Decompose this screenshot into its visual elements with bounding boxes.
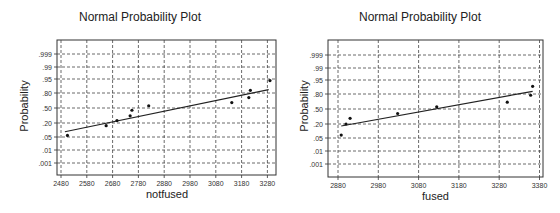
- svg-text:.80: .80: [42, 90, 52, 97]
- svg-text:.20: .20: [42, 120, 52, 127]
- svg-text:2880: 2880: [330, 182, 346, 189]
- svg-text:2980: 2980: [371, 182, 387, 189]
- svg-text:.01: .01: [42, 147, 52, 154]
- svg-text:.05: .05: [42, 134, 52, 141]
- plot-area: .001.01.05.20.50.80.95.99.99924802580268…: [0, 0, 280, 213]
- svg-text:2680: 2680: [105, 180, 121, 187]
- svg-text:2780: 2780: [131, 180, 147, 187]
- svg-text:.80: .80: [313, 91, 323, 98]
- svg-text:3180: 3180: [451, 182, 467, 189]
- svg-text:2480: 2480: [53, 180, 69, 187]
- chart-notfused: Normal Probability Plot Probability notf…: [0, 0, 280, 213]
- svg-text:3380: 3380: [532, 182, 548, 189]
- svg-text:.05: .05: [313, 135, 323, 142]
- chart-fused: Normal Probability Plot Probability fuse…: [280, 0, 560, 213]
- svg-text:.999: .999: [38, 51, 52, 58]
- svg-text:.99: .99: [42, 64, 52, 71]
- svg-text:3280: 3280: [260, 180, 276, 187]
- svg-text:2880: 2880: [156, 180, 172, 187]
- svg-text:2980: 2980: [182, 180, 198, 187]
- svg-text:3280: 3280: [491, 182, 507, 189]
- svg-text:2580: 2580: [79, 180, 95, 187]
- svg-text:3180: 3180: [234, 180, 250, 187]
- svg-text:.001: .001: [38, 160, 52, 167]
- svg-text:.95: .95: [313, 77, 323, 84]
- svg-text:.99: .99: [313, 65, 323, 72]
- plot-area: .001.01.05.20.50.80.95.99.99928802980308…: [280, 0, 560, 213]
- svg-text:.50: .50: [42, 105, 52, 112]
- svg-text:.95: .95: [42, 76, 52, 83]
- svg-text:3080: 3080: [411, 182, 427, 189]
- svg-text:.001: .001: [309, 161, 323, 168]
- svg-text:.20: .20: [313, 121, 323, 128]
- svg-text:3080: 3080: [208, 180, 224, 187]
- svg-text:.999: .999: [309, 52, 323, 59]
- svg-text:.50: .50: [313, 106, 323, 113]
- svg-text:.01: .01: [313, 148, 323, 155]
